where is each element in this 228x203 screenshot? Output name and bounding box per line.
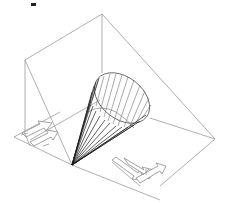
right-arrow-symbol: [112, 157, 166, 186]
left-arrow-symbol: [21, 121, 58, 146]
diagram-canvas: [0, 0, 228, 203]
wireframe-box: [14, 14, 215, 200]
cone-diagram: [0, 0, 228, 203]
cone-ribs: [92, 74, 151, 127]
cone: [72, 62, 159, 165]
cone-generators: [72, 78, 146, 165]
corner-mark: [31, 3, 36, 6]
